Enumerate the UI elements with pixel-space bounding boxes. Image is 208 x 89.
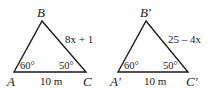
vertex-a-prime-label: A′ bbox=[109, 74, 121, 89]
angle-a-prime-label: 60° bbox=[124, 60, 139, 71]
vertex-c-prime-label: C′ bbox=[186, 74, 198, 89]
side-b-prime-c-prime-label: 25 – 4x bbox=[168, 33, 202, 45]
angle-a-label: 60° bbox=[20, 60, 35, 71]
triangle-a-prime-b-prime-c-prime: B′ A′ C′ 25 – 4x 10 m 60° 50° bbox=[109, 5, 202, 89]
angle-c-prime-label: 50° bbox=[163, 60, 178, 71]
congruent-triangles-diagram: B A C 8x + 1 10 m 60° 50° B′ A′ C′ 25 – … bbox=[0, 0, 208, 89]
vertex-a-label: A bbox=[6, 74, 15, 89]
vertex-b-prime-label: B′ bbox=[140, 5, 151, 20]
side-bc-label: 8x + 1 bbox=[65, 33, 93, 45]
side-ac-label: 10 m bbox=[40, 75, 63, 87]
side-a-prime-c-prime-label: 10 m bbox=[144, 75, 167, 87]
angle-c-label: 50° bbox=[59, 60, 74, 71]
vertex-b-label: B bbox=[37, 5, 45, 20]
vertex-c-label: C bbox=[83, 74, 92, 89]
triangle-abc: B A C 8x + 1 10 m 60° 50° bbox=[6, 5, 93, 89]
